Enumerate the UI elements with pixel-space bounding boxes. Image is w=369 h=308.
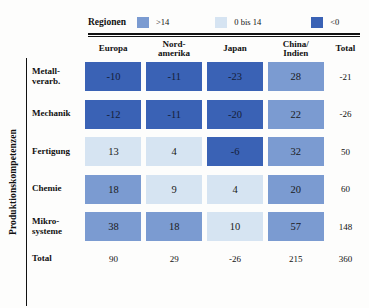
row-total-value: -21	[325, 72, 366, 82]
legend-item-lt0: <0	[311, 17, 339, 28]
heatmap-cell-wrap: 28	[267, 62, 325, 91]
heatmap-cell: 4	[207, 175, 263, 204]
heatmap-cell-wrap: -23	[206, 62, 264, 91]
heatmap-cell-wrap: 57	[267, 212, 325, 241]
heatmap-cell: 18	[146, 212, 202, 241]
legend: Regionen >14 0 bis 14 <0	[88, 12, 366, 32]
column-header-nordamerika: Nord-amerika	[145, 38, 203, 60]
column-header-total: Total	[325, 38, 366, 60]
heatmap-cell: -20	[207, 100, 263, 129]
column-header-corner	[26, 38, 84, 60]
column-totals-label: Total	[26, 254, 84, 264]
header-rule-bottom	[88, 36, 360, 37]
heatmap-cell: 10	[207, 212, 263, 241]
heatmap-cell: -6	[207, 137, 263, 166]
heatmap-cell-wrap: -12	[84, 100, 142, 129]
vertical-axis-label-text: Produktionskompetenzen	[8, 129, 18, 235]
column-header-chinaindien: China/Indien	[267, 38, 325, 60]
heatmap-cell-wrap: -10	[84, 62, 142, 91]
heatmap-cell-wrap: 32	[267, 137, 325, 166]
heatmap-row: Chemie18942060	[26, 171, 366, 209]
heatmap-cell: -11	[146, 100, 202, 129]
heatmap-cell-wrap: -20	[206, 100, 264, 129]
heatmap-cell: 9	[146, 175, 202, 204]
heatmap-cell: 32	[268, 137, 324, 166]
heatmap-cell: -11	[146, 62, 202, 91]
heatmap-cell-wrap: 18	[145, 212, 203, 241]
row-label: Mechanik	[26, 109, 84, 119]
legend-swatch-lt0	[311, 17, 323, 28]
heatmap-row: Mechanik-12-11-2022-26	[26, 96, 366, 134]
column-totals-row: Total9029-26215360	[26, 246, 366, 272]
legend-item-gt14: >14	[137, 17, 169, 28]
legend-item-0to14: 0 bis 14	[215, 17, 261, 28]
heatmap-cell: 22	[268, 100, 324, 129]
legend-label-lt0: <0	[330, 17, 339, 27]
row-total-value: 50	[325, 147, 366, 157]
heatmap-cell: 20	[268, 175, 324, 204]
row-label: Mikro-systeme	[26, 217, 84, 236]
heatmap-cell-wrap: 22	[267, 100, 325, 129]
heatmap-cell-wrap: 4	[206, 175, 264, 204]
row-total-value: -26	[325, 109, 366, 119]
heatmap-cell: -12	[85, 100, 141, 129]
heatmap-cell: 38	[85, 212, 141, 241]
column-total-value: 29	[145, 254, 203, 264]
heatmap-cell-wrap: 20	[267, 175, 325, 204]
heatmap-cell: -23	[207, 62, 263, 91]
legend-swatch-gt14	[137, 17, 149, 28]
column-header-europa: Europa	[84, 38, 142, 60]
column-header-row: Europa Nord-amerika Japan China/Indien T…	[26, 38, 366, 60]
heatmap-cell: 28	[268, 62, 324, 91]
row-label: Chemie	[26, 184, 84, 194]
row-total-value: 60	[325, 184, 366, 194]
heatmap-cell: 57	[268, 212, 324, 241]
heatmap-cell-wrap: 9	[145, 175, 203, 204]
heatmap-cell-wrap: -6	[206, 137, 264, 166]
heatmap-cell: 13	[85, 137, 141, 166]
grand-total-value: 360	[325, 254, 366, 264]
heatmap-row: Fertigung134-63250	[26, 133, 366, 171]
heatmap-cell-wrap: -11	[145, 100, 203, 129]
row-label: Fertigung	[26, 147, 84, 157]
heatmap-cell-wrap: 13	[84, 137, 142, 166]
heatmap-cell-wrap: -11	[145, 62, 203, 91]
legend-label-0to14: 0 bis 14	[234, 17, 261, 27]
heatmap-cell-wrap: 4	[145, 137, 203, 166]
column-total-value: 215	[267, 254, 325, 264]
legend-title: Regionen	[88, 17, 126, 27]
column-total-value: 90	[84, 254, 142, 264]
heatmap-grid: Metall-verarb.-10-11-2328-21Mechanik-12-…	[26, 58, 366, 272]
row-label: Metall-verarb.	[26, 67, 84, 86]
column-total-value: -26	[206, 254, 264, 264]
legend-swatch-0to14	[215, 17, 227, 28]
column-header-japan: Japan	[206, 38, 264, 60]
heatmap-cell: 18	[85, 175, 141, 204]
heatmap-cell-wrap: 38	[84, 212, 142, 241]
header-rule-top	[88, 33, 360, 35]
heatmap-cell-wrap: 18	[84, 175, 142, 204]
heatmap-figure: Produktionskompetenzen Regionen >14 0 bi…	[0, 0, 369, 308]
heatmap-cell: -10	[85, 62, 141, 91]
row-total-value: 148	[325, 222, 366, 232]
heatmap-row: Mikro-systeme38181057148	[26, 208, 366, 246]
legend-label-gt14: >14	[156, 17, 169, 27]
heatmap-row: Metall-verarb.-10-11-2328-21	[26, 58, 366, 96]
vertical-axis-label: Produktionskompetenzen	[2, 58, 24, 306]
heatmap-cell-wrap: 10	[206, 212, 264, 241]
heatmap-cell: 4	[146, 137, 202, 166]
